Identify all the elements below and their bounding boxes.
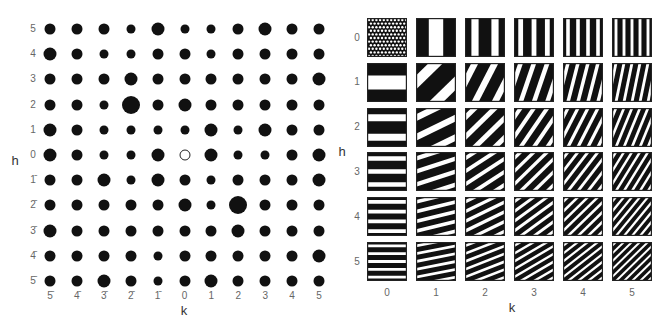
h-tick-label: 3 (30, 74, 36, 84)
fringe-tile (563, 152, 603, 191)
lattice-point (98, 225, 109, 236)
lattice-point (98, 74, 109, 85)
lattice-point (153, 125, 162, 134)
lattice-point (287, 276, 298, 287)
lattice-point (206, 250, 217, 261)
lattice-point (151, 174, 164, 187)
lattice-point (71, 225, 82, 236)
lattice-point (45, 99, 56, 110)
fringe-tile (416, 152, 456, 191)
lattice-point (71, 24, 82, 35)
lattice-point (206, 74, 217, 85)
lattice-point (179, 250, 190, 261)
h-tick-label: 4 (354, 212, 360, 222)
h-tick-label: 0 (354, 33, 360, 43)
lattice-point (206, 225, 217, 236)
lattice-point (259, 23, 272, 36)
lattice-point (97, 174, 110, 187)
lattice-point (233, 175, 244, 186)
lattice-point (179, 49, 190, 60)
lattice-point (99, 100, 108, 109)
k-tick-label: 3 (262, 291, 268, 301)
lattice-point (99, 50, 108, 59)
lattice-point (206, 99, 217, 110)
lattice-point (152, 200, 163, 211)
k-tick-label: 1̄ (155, 291, 161, 301)
lattice-point (207, 176, 216, 185)
lattice-point (287, 74, 298, 85)
k-tick-label: 4̄ (74, 291, 80, 301)
fringe-tile (563, 18, 603, 57)
lattice-point (45, 24, 56, 35)
lattice-point (152, 49, 163, 60)
lattice-point (205, 149, 218, 162)
lattice-point (125, 225, 136, 236)
h-tick-label: 4̄ (30, 251, 36, 261)
lattice-point (205, 275, 218, 288)
lattice-point (99, 151, 108, 160)
fringe-tile (465, 242, 505, 281)
right-k-axis-label: k (509, 301, 516, 314)
lattice-point (287, 99, 298, 110)
k-tick-label: 2̄ (128, 291, 134, 301)
lattice-point (314, 24, 325, 35)
fringe-tile (563, 63, 603, 102)
fringe-tile (465, 197, 505, 236)
fringe-tile (612, 197, 652, 236)
fringe-tile (514, 197, 554, 236)
lattice-point (178, 98, 191, 111)
fringe-tile (563, 108, 603, 147)
lattice-point (126, 125, 135, 134)
lattice-point (287, 200, 298, 211)
lattice-point (233, 250, 244, 261)
lattice-point (122, 96, 140, 114)
lattice-point (71, 150, 82, 161)
lattice-point (313, 149, 326, 162)
lattice-point (314, 200, 325, 211)
lattice-point (287, 124, 298, 135)
lattice-point (45, 250, 56, 261)
origin-open-circle (179, 150, 190, 161)
fringe-tile (612, 152, 652, 191)
lattice-point (152, 99, 163, 110)
left-k-axis-label: k (181, 304, 188, 317)
lattice-point (287, 175, 298, 186)
lattice-point (260, 250, 271, 261)
k-tick-label: 4 (289, 291, 295, 301)
fringe-tile (367, 152, 407, 191)
lattice-point (98, 24, 109, 35)
lattice-point (99, 125, 108, 134)
right-h-axis-label: h (338, 145, 345, 158)
lattice-point (287, 24, 298, 35)
lattice-point (207, 50, 216, 59)
lattice-point (71, 99, 82, 110)
fringe-tile (416, 108, 456, 147)
lattice-point (153, 277, 162, 286)
fringe-tile (367, 242, 407, 281)
lattice-point (98, 250, 109, 261)
lattice-point (287, 150, 298, 161)
lattice-point (153, 251, 162, 260)
lattice-point (126, 50, 135, 59)
fringe-tile (612, 242, 652, 281)
lattice-point (179, 276, 190, 287)
lattice-point (151, 23, 164, 36)
k-tick-label: 4 (580, 288, 586, 298)
lattice-point (71, 124, 82, 135)
lattice-point (233, 24, 244, 35)
lattice-point (125, 250, 136, 261)
lattice-point (71, 74, 82, 85)
lattice-point (152, 225, 163, 236)
lattice-point (287, 250, 298, 261)
lattice-point (45, 74, 56, 85)
fringe-tile (416, 63, 456, 102)
h-tick-label: 2 (354, 122, 360, 132)
fringe-tile (514, 152, 554, 191)
lattice-point (260, 74, 271, 85)
h-tick-label: 5̄ (30, 276, 36, 286)
lattice-point (126, 151, 135, 160)
k-tick-label: 0 (384, 288, 390, 298)
lattice-point (44, 224, 57, 237)
lattice-point (126, 25, 135, 34)
lattice-point (45, 200, 56, 211)
